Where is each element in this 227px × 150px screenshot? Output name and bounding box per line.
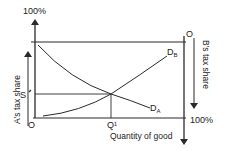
curve-a-label: DA — [150, 103, 161, 114]
q1-label: Q¹ — [107, 120, 117, 130]
x-axis-label: Quantity of good — [110, 131, 173, 141]
bottom-right-100-label: 100% — [190, 115, 213, 125]
s-marker-icon — [29, 90, 31, 92]
origin-right-label: O — [186, 29, 193, 39]
demand-curve-a — [38, 45, 150, 108]
origin-left-label: O — [28, 120, 35, 130]
left-axis-label: A's tax share — [12, 75, 22, 124]
right-axis-label: B's tax share — [201, 40, 211, 89]
curve-b-label: DB — [167, 47, 178, 58]
top-left-100-label: 100% — [23, 6, 46, 16]
tax-share-diagram: 100% O O Q¹ S Quantity of good 100% DB D… — [0, 0, 227, 150]
